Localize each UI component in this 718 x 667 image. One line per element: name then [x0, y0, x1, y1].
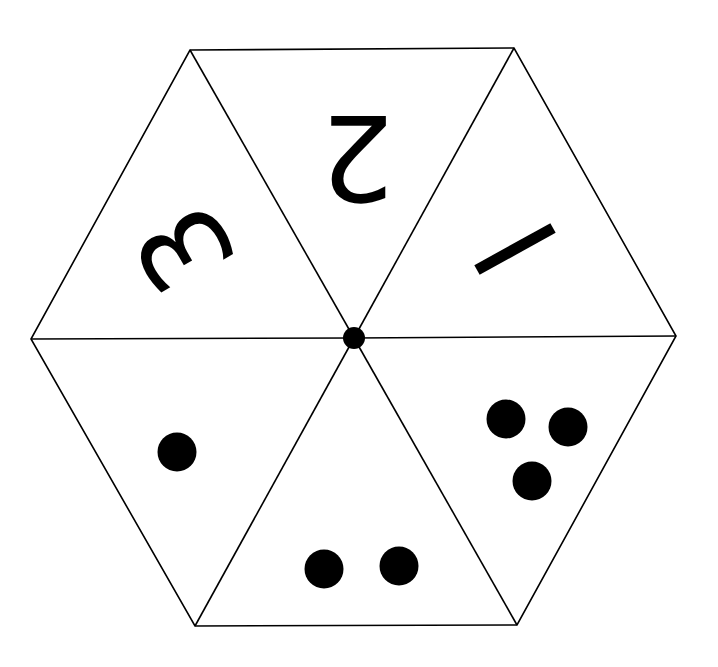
pip-dot — [305, 550, 344, 589]
divider-right — [354, 336, 676, 338]
numeral-three: 3 — [107, 181, 264, 315]
numeral-one — [477, 228, 553, 270]
pip-dot — [513, 462, 552, 501]
pip-dot — [380, 547, 419, 586]
section-upper-right — [477, 228, 553, 270]
section-lower-right — [487, 400, 588, 501]
pip-dot — [158, 433, 197, 472]
section-lower-left — [158, 433, 197, 472]
hexagon-spinner: 2 3 — [0, 0, 718, 667]
pip-dot — [487, 400, 526, 439]
divider-left — [31, 338, 354, 339]
section-bottom — [305, 547, 419, 589]
divider-bottom-right — [354, 338, 517, 625]
center-pivot-dot — [343, 327, 365, 349]
pip-dot — [549, 408, 588, 447]
numeral-two: 2 — [319, 88, 394, 226]
section-upper-left: 3 — [107, 181, 264, 315]
section-top: 2 — [319, 88, 394, 226]
